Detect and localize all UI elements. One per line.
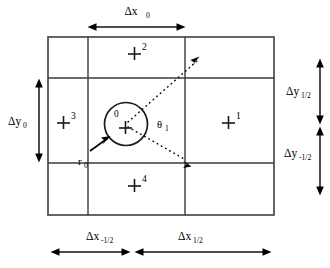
- cell-label-3: 3: [71, 110, 76, 121]
- radius-subscript: 0: [84, 161, 88, 170]
- delta-y-half-arrowhead-top: [316, 59, 324, 68]
- cell-markers-group: [57, 47, 235, 192]
- cell-marker-2: [128, 47, 141, 60]
- delta-y-0-symbol: Δy: [8, 115, 21, 128]
- figure-container: 0 2 3 1 4 θ 1 r 0 Δx 0 Δy 0: [0, 0, 330, 268]
- angular-sector-rays: [128, 57, 200, 169]
- delta-y-0-arrowhead-bottom: [35, 154, 43, 163]
- delta-y-half-symbol: Δy: [286, 85, 299, 98]
- theta-symbol: θ: [157, 119, 162, 130]
- delta-x-half-arrowhead-left: [135, 248, 144, 256]
- delta-y-minus-half-symbol: Δy: [284, 147, 297, 160]
- upper-ray-line: [128, 61, 197, 122]
- cell-marker-3: [57, 116, 70, 129]
- angle-theta1-label: θ 1: [157, 119, 169, 133]
- delta-x-minus-half-subscript: -1/2: [101, 236, 113, 245]
- radius-annotation: r 0: [78, 136, 111, 170]
- lower-ray-arrowhead: [183, 161, 192, 169]
- cell-marker-0: [119, 121, 132, 134]
- upper-ray-arrowhead: [191, 57, 200, 67]
- delta-y-minus-half-subscript: -1/2: [299, 153, 311, 162]
- delta-x-half-subscript: 1/2: [193, 236, 203, 245]
- delta-x-0-symbol: Δx: [124, 5, 137, 17]
- theta-subscript: 1: [165, 124, 169, 133]
- delta-x-0-arrowhead-left: [88, 23, 97, 31]
- delta-x-0-arrowhead-right: [177, 23, 186, 31]
- cell-label-0: 0: [114, 109, 119, 119]
- cell-label-4: 4: [142, 173, 147, 184]
- delta-x-minus-half-symbol: Δx: [86, 230, 99, 242]
- delta-y-half-arrowhead-bottom: [316, 116, 324, 125]
- dimension-right-upper: Δy 1/2: [286, 59, 324, 125]
- cell-label-1: 1: [236, 110, 241, 121]
- delta-y-minus-half-arrowhead-top: [316, 127, 324, 136]
- dimension-bottom-right: Δx 1/2: [135, 230, 272, 256]
- cell-marker-4: [128, 179, 141, 192]
- delta-x-half-symbol: Δx: [178, 230, 191, 242]
- delta-y-0-subscript: 0: [23, 121, 27, 130]
- dimension-right-lower: Δy -1/2: [284, 127, 324, 196]
- delta-y-half-subscript: 1/2: [301, 91, 311, 100]
- delta-x-0-subscript: 0: [146, 11, 150, 20]
- cell-stencil-diagram: 0 2 3 1 4 θ 1 r 0 Δx 0 Δy 0: [0, 0, 330, 268]
- dimension-bottom-left: Δx -1/2: [51, 230, 131, 256]
- delta-y-minus-half-arrowhead-bottom: [316, 187, 324, 196]
- cell-label-2: 2: [142, 41, 147, 52]
- radius-symbol: r: [78, 155, 82, 167]
- delta-y-0-arrowhead-top: [35, 79, 43, 88]
- delta-x-minus-half-arrowhead-right: [122, 248, 131, 256]
- cell-marker-1: [222, 116, 235, 129]
- delta-x-half-arrowhead-right: [263, 248, 272, 256]
- radius-arrowhead: [101, 136, 111, 145]
- dimension-left: Δy 0: [8, 79, 43, 163]
- dimension-top: Δx 0: [88, 5, 186, 31]
- delta-x-minus-half-arrowhead-left: [51, 248, 60, 256]
